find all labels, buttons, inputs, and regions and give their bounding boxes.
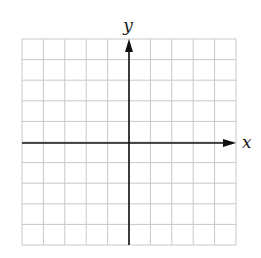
- x-axis-arrow-icon: [223, 139, 236, 147]
- coordinate-plane: y x: [0, 0, 261, 258]
- x-axis-label: x: [242, 132, 252, 152]
- y-axis-arrow-icon: [125, 39, 133, 52]
- y-axis-label: y: [122, 15, 133, 35]
